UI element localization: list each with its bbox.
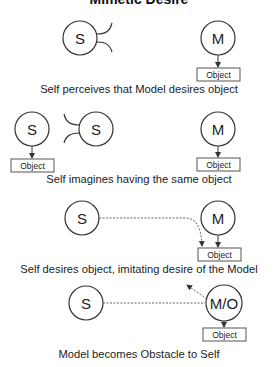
model-node: M xyxy=(201,112,235,146)
obstacle-dashed-arrow xyxy=(187,285,207,299)
section-3: S M Object xyxy=(65,201,241,261)
svg-text:S: S xyxy=(91,121,101,138)
object-box: Object xyxy=(197,68,240,81)
svg-text:Object: Object xyxy=(207,250,232,260)
caption-section-4: Model becomes Obstacle to Self xyxy=(0,348,278,360)
perception-lines xyxy=(97,23,112,52)
svg-text:S: S xyxy=(75,30,85,47)
imitated-desire-dashed-arrow xyxy=(99,218,202,246)
caption-section-2: Self imagines having the same object xyxy=(0,173,278,185)
svg-text:Object: Object xyxy=(206,160,231,170)
self-node: S xyxy=(65,201,99,235)
model-node: M xyxy=(201,201,235,235)
svg-text:Object: Object xyxy=(206,70,231,80)
svg-text:S: S xyxy=(81,295,91,312)
svg-text:Object: Object xyxy=(212,330,237,340)
section-1: S M Object xyxy=(63,21,240,81)
imagination-lines xyxy=(64,114,80,143)
svg-text:Object: Object xyxy=(20,161,45,171)
self-imagined-node: S xyxy=(15,112,49,146)
self-node: S xyxy=(79,112,113,146)
object-box: Object xyxy=(203,328,246,341)
self-object-box: Object xyxy=(11,159,54,172)
svg-text:S: S xyxy=(27,121,37,138)
caption-section-3: Self desires object, imitating desire of… xyxy=(0,263,278,275)
svg-text:M: M xyxy=(212,121,225,138)
svg-text:M: M xyxy=(212,30,225,47)
section-4: S M/O Object xyxy=(69,285,246,341)
section-2: S Object S M Object xyxy=(11,112,240,172)
svg-text:M/O: M/O xyxy=(210,295,238,312)
model-obstacle-node: M/O xyxy=(206,285,242,321)
svg-text:S: S xyxy=(77,210,87,227)
svg-text:M: M xyxy=(212,210,225,227)
self-node: S xyxy=(63,21,97,55)
self-node: S xyxy=(69,286,103,320)
model-node: M xyxy=(201,21,235,55)
caption-section-1: Self perceives that Model desires object xyxy=(0,83,278,95)
object-box: Object xyxy=(198,248,241,261)
model-object-box: Object xyxy=(197,158,240,171)
